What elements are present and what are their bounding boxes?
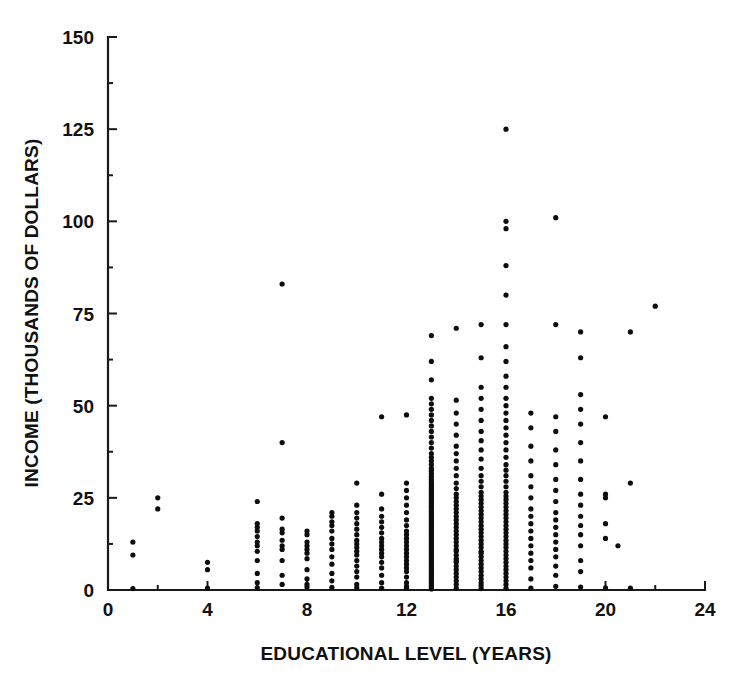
data-point: [280, 440, 285, 445]
x-tick-label: 12: [396, 599, 417, 620]
data-point: [628, 329, 633, 334]
data-point: [454, 398, 459, 403]
data-point: [553, 539, 558, 544]
data-point: [329, 547, 334, 552]
data-point: [354, 521, 359, 526]
x-tick-label: 20: [595, 599, 616, 620]
data-point: [255, 499, 260, 504]
data-point: [454, 433, 459, 438]
data-point: [205, 560, 210, 565]
data-point: [479, 385, 484, 390]
data-point: [578, 329, 583, 334]
data-point: [503, 219, 508, 224]
data-point: [429, 396, 434, 401]
data-point: [615, 543, 620, 548]
data-point: [578, 422, 583, 427]
data-point: [454, 486, 459, 491]
y-tick-label: 150: [62, 27, 94, 48]
data-point: [503, 473, 508, 478]
data-point: [578, 477, 583, 482]
data-point: [205, 586, 210, 591]
data-point: [503, 374, 508, 379]
data-point: [528, 521, 533, 526]
data-point: [603, 521, 608, 526]
data-point: [553, 462, 558, 467]
data-point: [205, 567, 210, 572]
data-point: [578, 569, 583, 574]
data-point: [379, 414, 384, 419]
data-point: [578, 558, 583, 563]
data-point: [429, 377, 434, 382]
data-point: [329, 585, 334, 590]
data-point: [553, 429, 558, 434]
data-point: [255, 539, 260, 544]
y-tick-label: 0: [83, 580, 94, 601]
data-point: [553, 488, 558, 493]
data-point: [553, 499, 558, 504]
data-point: [503, 322, 508, 327]
data-point: [628, 586, 633, 591]
data-point: [454, 326, 459, 331]
data-point: [503, 425, 508, 430]
data-point: [553, 322, 558, 327]
data-point: [528, 484, 533, 489]
data-point: [479, 396, 484, 401]
y-axis-tick-labels: 0255075100125150: [62, 27, 94, 601]
data-point: [130, 586, 135, 591]
data-point: [578, 532, 583, 537]
y-tick-label: 50: [73, 396, 94, 417]
data-point: [354, 558, 359, 563]
data-point: [479, 355, 484, 360]
data-point: [528, 536, 533, 541]
data-point: [454, 444, 459, 449]
data-point: [528, 495, 533, 500]
data-point: [429, 412, 434, 417]
data-point: [528, 565, 533, 570]
data-point: [404, 503, 409, 508]
data-point: [429, 440, 434, 445]
data-point: [479, 457, 484, 462]
data-point: [479, 322, 484, 327]
data-point: [329, 536, 334, 541]
data-point: [653, 304, 658, 309]
data-point: [528, 558, 533, 563]
data-point: [553, 414, 558, 419]
data-point: [479, 438, 484, 443]
data-point: [304, 576, 309, 581]
data-point: [503, 490, 508, 495]
data-point: [528, 425, 533, 430]
data-point: [280, 538, 285, 543]
data-point: [603, 414, 608, 419]
data-point: [255, 558, 260, 563]
data-point: [503, 418, 508, 423]
data-point: [578, 492, 583, 497]
data-point: [454, 466, 459, 471]
data-point: [479, 418, 484, 423]
data-point: [130, 552, 135, 557]
data-point: [503, 403, 508, 408]
data-point: [528, 458, 533, 463]
data-point: [280, 527, 285, 532]
data-point: [553, 477, 558, 482]
data-point: [379, 580, 384, 585]
data-point: [528, 473, 533, 478]
data-point: [553, 554, 558, 559]
data-point: [479, 407, 484, 412]
data-point: [280, 516, 285, 521]
data-point: [404, 517, 409, 522]
data-point: [578, 523, 583, 528]
data-point: [329, 578, 334, 583]
data-point: [479, 490, 484, 495]
data-point: [280, 281, 285, 286]
data-point: [379, 525, 384, 530]
data-point: [454, 451, 459, 456]
data-point: [255, 534, 260, 539]
data-point: [404, 412, 409, 417]
data-point: [130, 539, 135, 544]
data-point: [503, 344, 508, 349]
data-point: [280, 543, 285, 548]
data-point: [479, 479, 484, 484]
data-point: [578, 440, 583, 445]
data-point: [479, 447, 484, 452]
data-point: [329, 510, 334, 515]
